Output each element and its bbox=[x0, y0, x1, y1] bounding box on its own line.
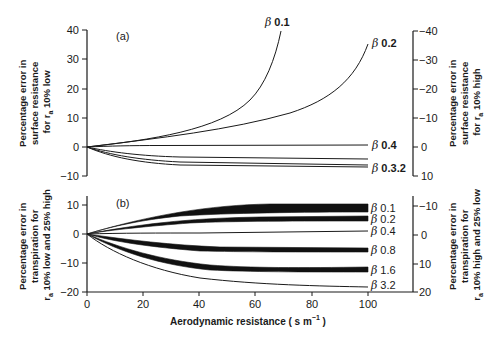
panel-a-curves bbox=[87, 31, 368, 167]
b-left-tick: −10 bbox=[60, 257, 79, 269]
panel-a-right-ylabel: Percentage error in surface resistance f… bbox=[447, 57, 484, 147]
panel-a: 40 30 20 10 0 −10 −40 −30 −20 −10 0 10 (… bbox=[17, 16, 484, 182]
label-b-beta-3.2: β3.2 bbox=[370, 279, 396, 292]
panel-a-left-ylabel: Percentage error in surface resistance f… bbox=[17, 57, 54, 147]
b-right-tick: 10 bbox=[419, 258, 431, 270]
a-right-tick: −30 bbox=[419, 54, 438, 66]
a-left-tick: 20 bbox=[67, 83, 79, 95]
x-tick: 0 bbox=[84, 298, 90, 310]
a-right-tick: 10 bbox=[421, 170, 433, 182]
panel-a-right-ticks: −40 −30 −20 −10 0 10 bbox=[413, 25, 438, 182]
curve-a-beta-0.1 bbox=[87, 31, 281, 147]
x-tick: 40 bbox=[193, 298, 205, 310]
label-a-beta-0.3.2: β0.3.2 bbox=[371, 162, 406, 175]
panel-b-left-ticks: 10 0 −10 −20 bbox=[60, 199, 87, 298]
line-b-beta-0.4 bbox=[87, 231, 368, 234]
panel-b: 10 0 −10 −20 0 20 40 60 80 100 −10 bbox=[17, 189, 484, 310]
panel-b-bands bbox=[87, 204, 368, 272]
panel-a-left-ticks: 40 30 20 10 0 −10 bbox=[60, 24, 87, 182]
x-axis-label: Aerodynamic resistance ( s m−1 ) bbox=[170, 314, 326, 327]
panel-b-x-ticks: 0 20 40 60 80 100 bbox=[84, 292, 377, 310]
x-tick: 80 bbox=[306, 298, 318, 310]
a-left-tick: 30 bbox=[67, 53, 79, 65]
panel-b-left-ylabel: Percentage error in transpiration for ra… bbox=[17, 189, 54, 301]
panel-b-right-ticks: −10 0 10 20 bbox=[413, 200, 438, 298]
a-left-tick: 10 bbox=[67, 112, 79, 124]
label-b-beta-1.6: β1.6 bbox=[370, 264, 396, 277]
label-a-beta-0.2: β0.2 bbox=[371, 37, 397, 50]
panel-b-label: (b) bbox=[116, 197, 129, 209]
a-left-tick: 0 bbox=[73, 141, 79, 153]
a-right-tick: −40 bbox=[419, 25, 438, 37]
x-tick: 20 bbox=[137, 298, 149, 310]
curve-a-beta-0.4 bbox=[87, 145, 368, 147]
curve-a-beta-0.2 bbox=[87, 44, 368, 147]
a-right-tick: −20 bbox=[419, 83, 438, 95]
b-left-tick: −20 bbox=[60, 286, 79, 298]
label-a-beta-0.4: β0.4 bbox=[371, 139, 398, 152]
label-a-beta-0.1: β0.1 bbox=[264, 16, 290, 29]
b-left-tick: 10 bbox=[67, 199, 79, 211]
panel-a-label: (a) bbox=[116, 30, 129, 42]
label-b-beta-0.4: β0.4 bbox=[370, 225, 396, 238]
a-left-tick: −10 bbox=[60, 170, 79, 182]
b-right-tick: 20 bbox=[419, 286, 431, 298]
curve-a-beta-1.6 bbox=[87, 147, 368, 165]
label-b-beta-0.8: β0.8 bbox=[370, 244, 396, 257]
a-right-tick: 0 bbox=[421, 141, 427, 153]
a-left-tick: 40 bbox=[67, 24, 79, 36]
x-tick: 100 bbox=[359, 298, 377, 310]
chart-figure: 40 30 20 10 0 −10 −40 −30 −20 −10 0 10 (… bbox=[0, 0, 497, 340]
b-right-tick: 0 bbox=[421, 229, 427, 241]
a-right-tick: −10 bbox=[419, 112, 438, 124]
b-right-tick: −10 bbox=[419, 200, 438, 212]
x-tick: 60 bbox=[249, 298, 261, 310]
b-left-tick: 0 bbox=[73, 228, 79, 240]
panel-b-right-ylabel: Percentage error in transpiration for ra… bbox=[447, 189, 484, 301]
